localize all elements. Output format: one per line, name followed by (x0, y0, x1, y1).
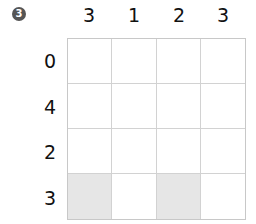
grid-cell[interactable] (68, 39, 112, 84)
grid-cell[interactable] (201, 84, 245, 129)
grid-cell[interactable] (157, 129, 201, 174)
grid-cell[interactable] (68, 129, 112, 174)
grid-cell[interactable] (112, 39, 156, 84)
column-clue: 3 (201, 2, 245, 28)
row-clue: 0 (40, 48, 60, 74)
grid-cell[interactable] (157, 174, 201, 219)
grid-cell[interactable] (157, 84, 201, 129)
row-clue: 3 (40, 185, 60, 211)
column-clue: 1 (112, 2, 156, 28)
grid-cell[interactable] (201, 39, 245, 84)
puzzle-grid (67, 38, 246, 220)
grid-cell[interactable] (112, 129, 156, 174)
grid-cell[interactable] (112, 174, 156, 219)
row-clue: 4 (40, 94, 60, 120)
grid-cell[interactable] (112, 84, 156, 129)
puzzle-number-badge: 3 (12, 7, 26, 21)
grid-cell[interactable] (68, 84, 112, 129)
column-clue: 2 (157, 2, 201, 28)
grid-cell[interactable] (68, 174, 112, 219)
grid-cell[interactable] (157, 39, 201, 84)
grid-cell[interactable] (201, 129, 245, 174)
column-clue: 3 (67, 2, 111, 28)
grid-cell[interactable] (201, 174, 245, 219)
row-clue: 2 (40, 139, 60, 165)
